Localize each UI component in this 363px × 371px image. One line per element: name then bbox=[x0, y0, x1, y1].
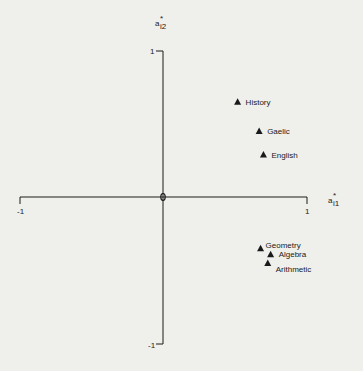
point-label: Arithmetic bbox=[276, 265, 312, 274]
point-label: Algebra bbox=[279, 250, 307, 259]
data-point: Arithmetic bbox=[264, 259, 311, 274]
point-label: Geometry bbox=[266, 241, 301, 250]
svg-text:i1: i1 bbox=[333, 199, 340, 208]
data-point: Gaelic bbox=[256, 127, 290, 136]
svg-text:i2: i2 bbox=[160, 22, 167, 31]
x-max-label: 1 bbox=[305, 207, 310, 216]
data-point: History bbox=[234, 98, 270, 107]
scatter-plot: -1 1 1 -1 a * i1 a * i2 HistoryGaelicEng… bbox=[0, 0, 363, 371]
point-label: Gaelic bbox=[267, 127, 290, 136]
y-min-label: -1 bbox=[148, 341, 156, 350]
x-axis-title: a * i1 bbox=[328, 191, 340, 208]
axes bbox=[20, 51, 307, 344]
y-max-label: 1 bbox=[150, 47, 155, 56]
triangle-marker-icon bbox=[264, 259, 271, 266]
triangle-marker-icon bbox=[257, 245, 264, 252]
point-label: English bbox=[271, 151, 297, 160]
triangle-marker-icon bbox=[234, 98, 241, 105]
triangle-marker-icon bbox=[267, 251, 274, 258]
triangle-marker-icon bbox=[260, 151, 267, 158]
x-min-label: -1 bbox=[17, 207, 25, 216]
data-points: HistoryGaelicEnglishGeometryAlgebraArith… bbox=[234, 98, 311, 274]
triangle-marker-icon bbox=[256, 128, 263, 135]
point-label: History bbox=[246, 98, 271, 107]
data-point: English bbox=[260, 151, 298, 160]
data-point: Algebra bbox=[267, 250, 307, 259]
y-axis-title: a * i2 bbox=[155, 14, 167, 31]
